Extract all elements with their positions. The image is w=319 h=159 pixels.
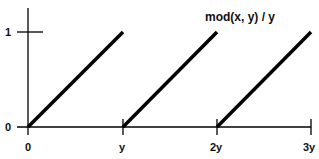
y-label-0: 0 [5, 121, 11, 133]
chart-title: mod(x, y) / y [205, 10, 275, 24]
sawtooth-chart: mod(x, y) / y 1 0 0 y 2y 3y [0, 0, 319, 159]
y-label-1: 1 [5, 26, 11, 38]
sawtooth-segment-2 [123, 32, 217, 127]
sawtooth-segment-3 [217, 32, 311, 127]
x-label-3y: 3y [303, 141, 316, 153]
x-label-2y: 2y [210, 141, 223, 153]
sawtooth-segment-1 [28, 32, 123, 127]
x-label-y: y [119, 141, 126, 153]
x-label-0: 0 [25, 141, 31, 153]
